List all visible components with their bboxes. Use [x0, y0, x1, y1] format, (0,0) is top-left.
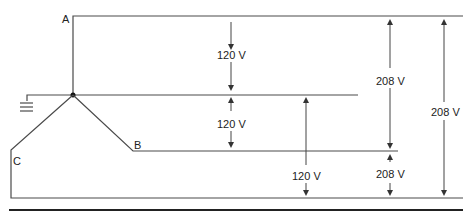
voltage-label: 120 V: [292, 170, 321, 182]
voltage-label: 120 V: [217, 49, 246, 61]
ground-icon: [20, 103, 33, 111]
wye-system-diagram: A B C 120 V 120 V 120 V 208 V 208 V 208 …: [0, 0, 473, 215]
measurement-a-b: 208 V: [376, 22, 405, 146]
node-label-a: A: [62, 13, 70, 25]
measurement-n-c: 120 V: [292, 100, 321, 193]
measurement-a-c: 208 V: [431, 22, 460, 193]
voltage-label: 208 V: [376, 168, 405, 180]
voltage-label: 208 V: [431, 106, 460, 118]
voltage-label: 120 V: [217, 118, 246, 130]
node-label-b: B: [134, 139, 141, 151]
node-label-c: C: [13, 155, 21, 167]
measurement-n-b: 120 V: [217, 100, 246, 145]
phase-c-line: [11, 95, 463, 198]
measurement-b-c: 208 V: [376, 157, 405, 193]
voltage-label: 208 V: [376, 75, 405, 87]
measurement-a-n: 120 V: [217, 22, 246, 88]
